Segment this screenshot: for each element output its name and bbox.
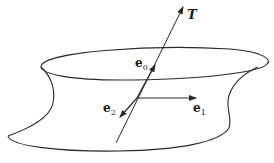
left-silhouette <box>8 67 54 136</box>
label-e0: e0 <box>135 56 148 72</box>
label-e1: e1 <box>193 101 206 117</box>
e2-arrow <box>120 98 137 117</box>
label-T: T <box>187 7 198 22</box>
right-silhouette <box>228 67 258 128</box>
bottom-rim <box>8 128 229 151</box>
label-e2: e2 <box>103 101 116 117</box>
surface-diagram: T e0 e1 e2 <box>0 0 274 163</box>
